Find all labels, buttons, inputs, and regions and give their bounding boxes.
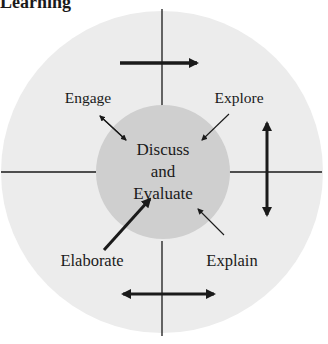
center-label-line-1: Discuss: [137, 140, 190, 159]
diagram-canvas: Engage Explore Elaborate Explain Discuss…: [0, 0, 328, 344]
phase-label-explain: Explain: [206, 251, 257, 270]
center-label-line-2: and: [151, 162, 176, 181]
phase-label-elaborate: Elaborate: [60, 251, 123, 270]
center-label-line-3: Evaluate: [133, 184, 192, 203]
phase-label-engage: Engage: [65, 89, 112, 106]
phase-label-explore: Explore: [214, 89, 263, 106]
diagram-title: Learning: [0, 0, 71, 11]
learning-cycle-diagram: Learning: [0, 0, 328, 344]
